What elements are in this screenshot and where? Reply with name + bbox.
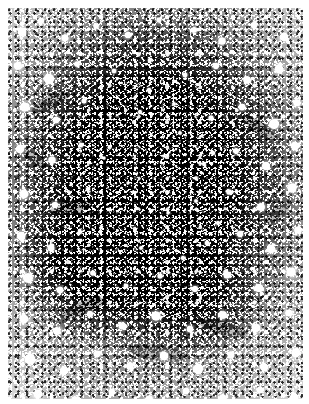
halftone-softening-overlay bbox=[8, 8, 303, 399]
emulsion-area bbox=[8, 8, 303, 399]
astronomical-plate-image bbox=[0, 0, 309, 404]
